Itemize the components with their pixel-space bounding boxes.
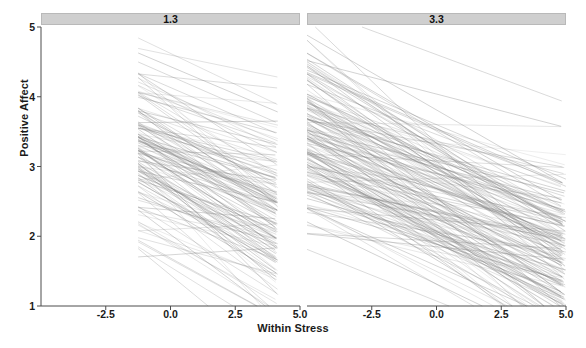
- x-axis-label: Within Stress: [0, 322, 586, 334]
- chart-canvas: 1.3 3.3 12345 -2.50.02.55.0-2.50.02.55.0…: [0, 0, 586, 348]
- x-tick-label-panel-2: 5.0: [546, 308, 586, 320]
- x-tick-label-panel-1: 2.5: [215, 308, 255, 320]
- x-tick-label-panel-2: 0.0: [417, 308, 457, 320]
- x-tick-label-panel-1: -2.5: [86, 308, 126, 320]
- x-tick-label-panel-1: 5.0: [280, 308, 320, 320]
- y-axis-label: Positive Affect: [18, 48, 30, 188]
- x-tick-label-panel-2: 2.5: [481, 308, 521, 320]
- y-tick-label: 2: [13, 230, 35, 242]
- x-tick-label-panel-1: 0.0: [151, 308, 191, 320]
- axis-layer: [0, 0, 586, 348]
- y-tick-label: 1: [13, 300, 35, 312]
- x-tick-label-panel-2: -2.5: [352, 308, 392, 320]
- y-tick-label: 5: [13, 21, 35, 33]
